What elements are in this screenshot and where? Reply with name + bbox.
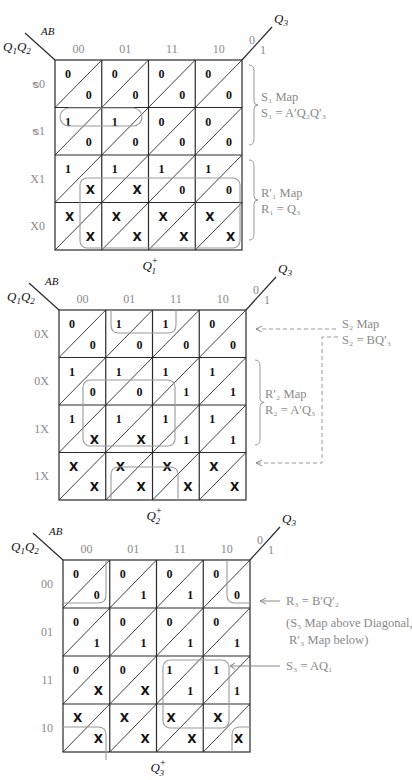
row-label: 1X (34, 469, 49, 483)
cell-value-upper: 0 (159, 115, 165, 129)
row-var-label: Q1Q2 (7, 289, 35, 306)
q3-var-label: Q3 (274, 11, 288, 28)
annotation-r1-map: R′₁ Map (261, 186, 302, 200)
kmap-cell: XX (195, 203, 242, 251)
q3-one-label: 1 (264, 293, 270, 307)
cell-diagonal (110, 608, 157, 656)
cell-value-lower: 0 (179, 135, 185, 149)
cell-value-upper: 0 (73, 663, 79, 677)
kmap-cell: 00 (199, 310, 246, 358)
kmap-cell: 11 (199, 405, 246, 453)
kmap-cell: 00 (59, 310, 106, 358)
map-title: Q+3 (151, 757, 166, 778)
q3-zero-label: 0 (249, 33, 255, 47)
cell-value-upper: 0 (112, 67, 118, 81)
q3-zero-label: 0 (257, 533, 263, 547)
kmap-cell: 00 (195, 60, 242, 108)
column-label-11: 11 (166, 42, 178, 56)
column-label-01: 01 (123, 292, 135, 306)
cell-diagonal (149, 60, 196, 108)
cell-value-lower: 0 (226, 135, 232, 149)
cell-value-upper: X (209, 460, 219, 474)
cell-value-lower: 0 (137, 338, 143, 352)
cell-value-upper: X (69, 460, 79, 474)
cell-value-lower: X (94, 684, 104, 698)
cell-value-lower: 0 (86, 88, 92, 102)
cell-value-lower: 1 (141, 636, 147, 650)
cell-diagonal (199, 310, 246, 358)
q3-axis-line (242, 27, 272, 60)
cell-value-lower: 1 (187, 684, 193, 698)
cell-value-lower: X (90, 433, 100, 447)
cell-value-lower: 1 (230, 433, 236, 447)
karnaugh-map-figure: ABQ1Q201Q300011110ᴓ0ᴓ1X1X000000000101000… (0, 0, 412, 780)
row-label: ᴓ1 (33, 124, 46, 138)
kmap-cell: 01 (63, 608, 110, 656)
cell-diagonal (199, 358, 246, 406)
cell-value-lower: 1 (234, 684, 240, 698)
row-label: X0 (30, 219, 45, 233)
row-label: 01 (41, 625, 53, 639)
kmap-3: ABQ1Q201Q3000111100001111000010100010101… (11, 511, 296, 778)
kmap-cell: XX (199, 453, 246, 501)
cell-value-upper: X (73, 711, 83, 725)
col-var-label: AB (40, 25, 55, 37)
cell-diagonal (102, 60, 149, 108)
cell-value-lower: X (86, 230, 96, 244)
cell-diagonal (63, 560, 110, 608)
q3-var-label: Q3 (282, 511, 296, 528)
annotation-r2-eq: R₂ = A′Q₃ (265, 403, 315, 417)
cell-value-upper: 0 (73, 615, 79, 629)
kmap-cell: 11 (153, 358, 200, 406)
cell-diagonal (59, 358, 106, 406)
col-var-label: AB (48, 525, 63, 537)
kmap-cell: 10 (59, 358, 106, 406)
cell-diagonal (55, 108, 102, 156)
cell-value-upper: 1 (163, 317, 169, 331)
kmap-cell: 00 (63, 560, 110, 608)
kmap-cell: 01 (110, 608, 157, 656)
row-label: 11 (41, 673, 53, 687)
q3-one-label: 1 (268, 543, 274, 557)
cell-value-upper: X (213, 711, 223, 725)
column-label-01: 01 (127, 542, 139, 556)
cell-value-lower: X (234, 732, 244, 746)
cell-diagonal (153, 405, 200, 453)
kmap-2: ABQ1Q201Q3000111100X0X1X1X00101000101011… (7, 261, 292, 526)
cell-value-upper: 0 (205, 115, 211, 129)
column-label-11: 11 (174, 542, 186, 556)
cell-diagonal (63, 608, 110, 656)
cell-value-lower: X (137, 433, 147, 447)
cell-value-lower: 1 (230, 385, 236, 399)
row-label: ᴓ0 (33, 77, 46, 91)
column-label-10: 10 (217, 292, 229, 306)
cell-value-upper: 0 (120, 567, 126, 581)
cell-value-upper: 1 (112, 162, 118, 176)
group-s1 (60, 108, 142, 126)
row-label: X1 (30, 172, 45, 186)
cell-value-upper: 1 (209, 365, 215, 379)
cell-diagonal (106, 358, 153, 406)
cell-value-lower: X (141, 684, 151, 698)
kmap-cell: 01 (203, 608, 250, 656)
cell-value-lower: X (90, 480, 100, 494)
cell-value-upper: X (205, 210, 215, 224)
cell-diagonal (106, 310, 153, 358)
cell-value-lower: 0 (133, 88, 139, 102)
kmap-cell: 01 (157, 560, 204, 608)
kmap-cell: 11 (199, 358, 246, 406)
cell-value-upper: 1 (213, 663, 219, 677)
cell-value-upper: 0 (167, 615, 173, 629)
cell-value-upper: 1 (163, 365, 169, 379)
cell-diagonal (153, 358, 200, 406)
brace-r1 (249, 160, 258, 240)
q3-axis-line (250, 527, 280, 560)
cell-value-upper: 0 (209, 317, 215, 331)
cell-value-lower: 1 (183, 385, 189, 399)
cell-value-upper: 1 (69, 412, 75, 426)
cell-value-upper: X (120, 711, 130, 725)
cell-value-lower: X (183, 480, 193, 494)
row-label: 10 (41, 721, 53, 735)
cell-value-lower: 0 (94, 588, 100, 602)
cell-value-lower: 0 (226, 183, 232, 197)
